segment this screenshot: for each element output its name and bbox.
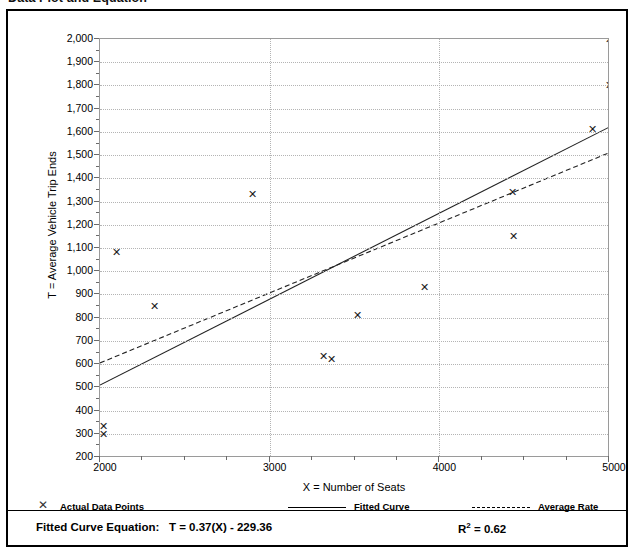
data-point-marker: ✕ [326, 354, 337, 365]
equation-value: T = 0.37(X) - 229.36 [169, 521, 272, 533]
gridline-horizontal [100, 364, 608, 365]
x-axis-tick [269, 456, 270, 462]
gridline-horizontal [100, 178, 608, 179]
x-axis-tick-label: 3000 [245, 461, 305, 473]
gridline-vertical [270, 39, 271, 456]
chart-panel: 2003004005006007008009001,0001,1001,2001… [6, 9, 628, 547]
x-axis-minor-tick [354, 456, 355, 460]
data-point-marker: ✕ [149, 301, 160, 312]
x-axis-label: X = Number of Seats [99, 481, 609, 493]
data-point-marker: ✕ [419, 282, 430, 293]
average-rate-line [100, 153, 608, 363]
chart-footer: Fitted Curve Equation: T = 0.37(X) - 229… [6, 512, 628, 545]
gridline-horizontal [100, 411, 608, 412]
data-point-marker: ✕ [587, 124, 598, 135]
gridline-horizontal [100, 62, 608, 63]
data-point-marker: ✕ [352, 310, 363, 321]
plot-canvas: ✕✕✕✕✕✕✕✕✕✕✕✕✕✕ [100, 39, 608, 456]
x-axis-tick-labels: 2000300040005000 [8, 461, 636, 477]
x-axis-minor-tick [566, 456, 567, 460]
data-point-marker: ✕ [507, 187, 518, 198]
data-point-marker: ✕ [111, 247, 122, 258]
x-axis-minor-tick [523, 456, 524, 460]
x-axis-tick-label: 4000 [414, 461, 474, 473]
data-point-marker: ✕ [604, 39, 609, 45]
gridline-horizontal [100, 387, 608, 388]
footer-divider [6, 510, 628, 511]
dashed-line-icon [472, 507, 530, 508]
gridline-horizontal [100, 294, 608, 295]
equation-label: Fitted Curve Equation: [36, 521, 159, 533]
gridline-horizontal [100, 85, 608, 86]
page-title: Data Plot and Equation [8, 0, 147, 5]
gridline-horizontal [100, 109, 608, 110]
x-axis-minor-tick [226, 456, 227, 460]
r-squared-exponent: 2 [466, 521, 470, 530]
x-axis-tick-label: 5000 [584, 461, 636, 473]
data-point-marker: ✕ [100, 429, 109, 440]
x-axis-minor-tick [184, 456, 185, 460]
x-axis-minor-tick [141, 456, 142, 460]
r-squared: R2 = 0.62 [458, 521, 506, 535]
gridline-horizontal [100, 248, 608, 249]
gridline-horizontal [100, 341, 608, 342]
gridline-horizontal [100, 155, 608, 156]
gridline-horizontal [100, 225, 608, 226]
y-axis-tick-label: 200 [47, 451, 93, 461]
gridline-horizontal [100, 271, 608, 272]
data-point-marker: ✕ [508, 231, 519, 242]
x-axis-minor-tick [481, 456, 482, 460]
gridline-vertical [439, 39, 440, 456]
gridline-horizontal [100, 202, 608, 203]
solid-line-icon [288, 507, 346, 508]
x-axis-tick [99, 456, 100, 462]
x-axis-tick-label: 2000 [75, 461, 135, 473]
y-axis-label: T = Average Vehicle Trip Ends [46, 15, 58, 435]
data-point-marker: ✕ [247, 189, 258, 200]
bottom-rule [6, 545, 628, 547]
fitted-curve-equation: Fitted Curve Equation: T = 0.37(X) - 229… [36, 521, 272, 533]
x-axis-tick [608, 456, 609, 462]
r-squared-value: = 0.62 [474, 523, 506, 535]
gridline-horizontal [100, 132, 608, 133]
plot-area: ✕✕✕✕✕✕✕✕✕✕✕✕✕✕ [99, 38, 609, 457]
x-axis-minor-tick [396, 456, 397, 460]
gridline-horizontal [100, 434, 608, 435]
x-axis-tick [438, 456, 439, 462]
x-axis-minor-tick [311, 456, 312, 460]
data-point-marker: ✕ [604, 80, 609, 91]
fitted-curve-line [100, 127, 608, 385]
chart-page: Data Plot and Equation 20030040050060070… [0, 0, 636, 553]
